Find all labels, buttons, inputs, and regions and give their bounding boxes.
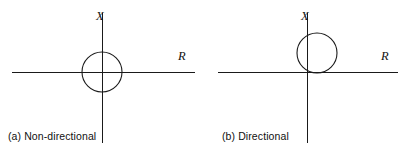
panel-a-non-directional: X R (a) Non-directional [8,9,195,143]
figure-canvas: X R (a) Non-directional X R (b) Directio… [0,0,410,155]
panel-b-directional: X R (b) Directional [218,9,398,143]
impedance-plane-figure: X R (a) Non-directional X R (b) Directio… [0,0,410,155]
panel-b-caption: (b) Directional [222,130,289,142]
panel-b-relay-characteristic-circle [297,33,337,73]
panel-b-reactance-axis-label: X [300,9,310,23]
panel-a-resistance-axis-label: R [177,49,186,63]
panel-b-resistance-axis-label: R [380,49,389,63]
panel-a-reactance-axis-label: X [95,9,105,23]
panel-a-caption: (a) Non-directional [8,130,96,142]
